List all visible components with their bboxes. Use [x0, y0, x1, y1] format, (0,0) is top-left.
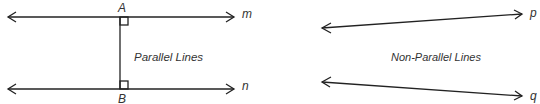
right-angle-b-icon — [120, 81, 128, 89]
point-label-b: B — [118, 92, 126, 104]
line-label-q: q — [530, 89, 537, 103]
caption-parallel: Parallel Lines — [134, 51, 203, 63]
point-label-a: A — [117, 1, 126, 15]
right-angle-a-icon — [120, 17, 128, 25]
lines-diagram: A B m n Parallel Lines p q Non-Parallel … — [0, 0, 540, 104]
line-label-n: n — [242, 79, 249, 93]
line-q — [322, 77, 522, 100]
caption-non-parallel: Non-Parallel Lines — [391, 51, 481, 63]
line-label-p: p — [529, 6, 537, 20]
line-label-m: m — [242, 7, 252, 21]
line-p — [322, 10, 522, 33]
